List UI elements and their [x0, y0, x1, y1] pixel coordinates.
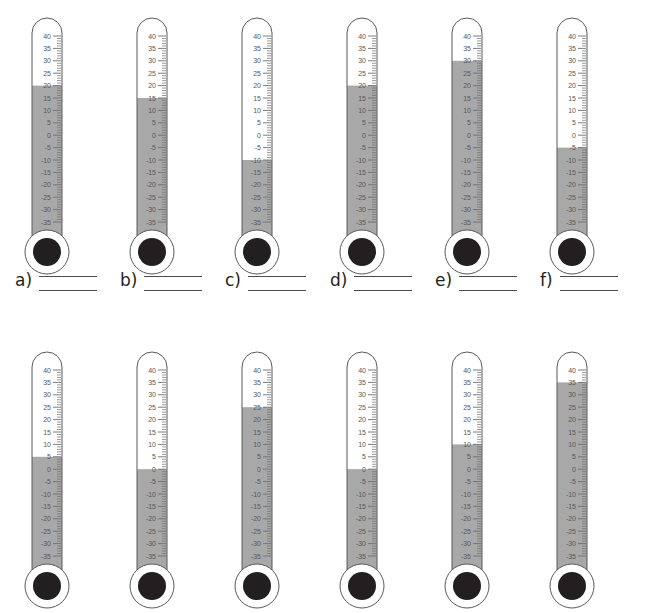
svg-text:35: 35 — [568, 379, 576, 386]
svg-text:15: 15 — [253, 95, 261, 102]
answer-rule-bottom — [144, 290, 202, 291]
svg-text:40: 40 — [358, 33, 366, 40]
svg-text:-20: -20 — [41, 515, 51, 522]
svg-text:10: 10 — [253, 441, 261, 448]
svg-text:5: 5 — [467, 453, 471, 460]
svg-text:35: 35 — [253, 45, 261, 52]
svg-text:30: 30 — [148, 57, 156, 64]
svg-text:20: 20 — [43, 82, 51, 89]
answer-blank-a[interactable] — [39, 271, 97, 293]
svg-text:25: 25 — [463, 70, 471, 77]
svg-text:-5: -5 — [465, 144, 471, 151]
svg-text:5: 5 — [152, 119, 156, 126]
svg-text:20: 20 — [463, 82, 471, 89]
svg-text:-20: -20 — [461, 515, 471, 522]
svg-text:-10: -10 — [146, 491, 156, 498]
svg-text:-35: -35 — [146, 219, 156, 226]
svg-text:-35: -35 — [251, 219, 261, 226]
svg-text:-10: -10 — [356, 157, 366, 164]
svg-text:-10: -10 — [356, 491, 366, 498]
svg-text:30: 30 — [463, 57, 471, 64]
svg-text:25: 25 — [43, 70, 51, 77]
answer-blank-d[interactable] — [354, 271, 412, 293]
svg-text:-15: -15 — [251, 169, 261, 176]
thermometer-j: 4035302520151050-5-10-15-20-25-30-35 — [345, 348, 407, 613]
svg-text:-5: -5 — [360, 144, 366, 151]
answer-letter-d: d) — [330, 270, 347, 290]
svg-text:-10: -10 — [251, 157, 261, 164]
svg-text:-35: -35 — [566, 553, 576, 560]
svg-text:-35: -35 — [566, 219, 576, 226]
answer-rule-bottom — [354, 290, 412, 291]
answer-blank-e[interactable] — [459, 271, 517, 293]
svg-text:0: 0 — [362, 132, 366, 139]
svg-text:10: 10 — [43, 107, 51, 114]
svg-text:-5: -5 — [360, 478, 366, 485]
answer-rule-top — [39, 276, 97, 277]
answer-lines-row: a)b)c)d)e)f) — [0, 262, 654, 302]
answer-letter-b: b) — [120, 270, 137, 290]
svg-text:-5: -5 — [150, 478, 156, 485]
svg-text:20: 20 — [358, 82, 366, 89]
svg-text:40: 40 — [463, 367, 471, 374]
svg-text:-10: -10 — [251, 491, 261, 498]
svg-text:-25: -25 — [566, 194, 576, 201]
svg-text:0: 0 — [467, 466, 471, 473]
svg-text:-35: -35 — [146, 553, 156, 560]
svg-text:15: 15 — [148, 429, 156, 436]
svg-text:-30: -30 — [146, 540, 156, 547]
svg-text:-15: -15 — [146, 503, 156, 510]
svg-text:25: 25 — [148, 70, 156, 77]
svg-text:40: 40 — [463, 33, 471, 40]
svg-text:-20: -20 — [146, 181, 156, 188]
answer-rule-bottom — [39, 290, 97, 291]
svg-text:-25: -25 — [356, 194, 366, 201]
thermometer-e: 4035302520151050-5-10-15-20-25-30-35 — [450, 14, 512, 280]
svg-text:5: 5 — [257, 453, 261, 460]
svg-text:5: 5 — [152, 453, 156, 460]
answer-letter-f: f) — [540, 270, 553, 290]
svg-text:-15: -15 — [356, 169, 366, 176]
svg-text:-15: -15 — [566, 169, 576, 176]
svg-text:20: 20 — [148, 416, 156, 423]
svg-text:10: 10 — [568, 441, 576, 448]
svg-text:30: 30 — [568, 391, 576, 398]
svg-text:10: 10 — [463, 107, 471, 114]
svg-text:10: 10 — [148, 441, 156, 448]
answer-item-b: b) — [120, 270, 202, 293]
svg-text:-15: -15 — [41, 503, 51, 510]
svg-text:15: 15 — [148, 95, 156, 102]
svg-text:20: 20 — [148, 82, 156, 89]
answer-blank-c[interactable] — [248, 271, 306, 293]
answer-item-a: a) — [15, 270, 97, 293]
answer-letter-e: e) — [435, 270, 452, 290]
svg-text:5: 5 — [47, 453, 51, 460]
svg-text:0: 0 — [572, 132, 576, 139]
thermometer-c: 4035302520151050-5-10-15-20-25-30-35 — [240, 14, 302, 280]
thermometer-f: 4035302520151050-5-10-15-20-25-30-35 — [555, 14, 617, 280]
svg-text:15: 15 — [43, 95, 51, 102]
svg-text:-25: -25 — [41, 194, 51, 201]
svg-text:5: 5 — [362, 453, 366, 460]
svg-text:25: 25 — [43, 404, 51, 411]
answer-blank-f[interactable] — [560, 271, 618, 293]
answer-rule-bottom — [560, 290, 618, 291]
svg-text:25: 25 — [568, 404, 576, 411]
svg-text:-20: -20 — [41, 181, 51, 188]
svg-text:-20: -20 — [251, 181, 261, 188]
svg-text:40: 40 — [43, 33, 51, 40]
svg-text:-25: -25 — [566, 528, 576, 535]
answer-blank-b[interactable] — [144, 271, 202, 293]
svg-text:-25: -25 — [356, 528, 366, 535]
svg-text:25: 25 — [253, 404, 261, 411]
svg-text:20: 20 — [43, 416, 51, 423]
svg-text:25: 25 — [358, 70, 366, 77]
svg-text:20: 20 — [253, 416, 261, 423]
svg-text:-5: -5 — [570, 478, 576, 485]
svg-text:30: 30 — [43, 57, 51, 64]
svg-text:10: 10 — [463, 441, 471, 448]
svg-text:-25: -25 — [461, 528, 471, 535]
svg-text:5: 5 — [572, 453, 576, 460]
svg-text:30: 30 — [568, 57, 576, 64]
svg-text:35: 35 — [358, 379, 366, 386]
